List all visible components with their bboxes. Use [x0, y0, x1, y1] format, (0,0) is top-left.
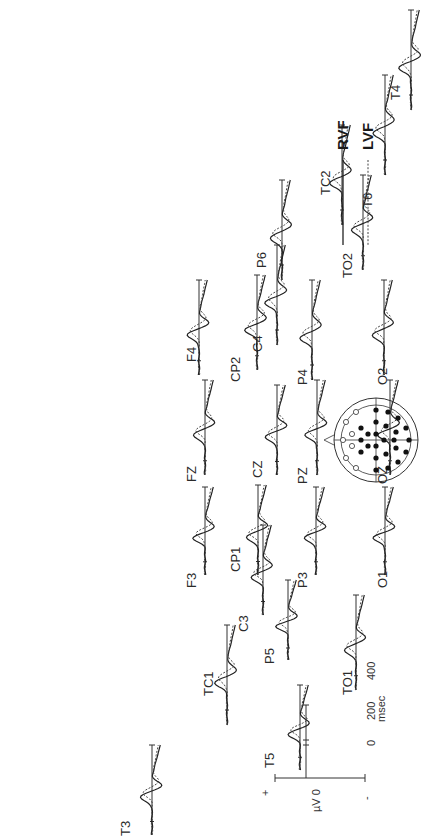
rvf-waveform: [304, 487, 325, 575]
electrode-dot-filled: [358, 425, 363, 430]
electrode-dot-filled: [406, 437, 411, 442]
electrode-label: TC1: [201, 671, 216, 696]
legend-lvf-label: LVF: [359, 123, 376, 150]
electrode-dot-open: [340, 437, 345, 442]
electrode-label: CP1: [228, 547, 243, 572]
electrode-label: PZ: [295, 467, 310, 484]
electrode-panel-p5: P5: [262, 580, 297, 664]
electrode-label: T5: [262, 753, 277, 768]
plus-label: +: [259, 790, 271, 796]
electrode-panel-to1: TO1: [340, 595, 366, 695]
electrode-panel-cp1: CP1: [228, 485, 268, 575]
electrode-dot-filled: [393, 429, 398, 434]
electrode-dot-filled: [358, 437, 363, 442]
electrode-label: F3: [184, 573, 199, 588]
electrode-dot-open: [349, 431, 354, 436]
electrode-dot-filled: [403, 425, 408, 430]
electrode-panel-t3: T3: [118, 745, 162, 836]
electrode-label: P4: [295, 369, 310, 385]
electrode-label: TO1: [340, 670, 355, 695]
electrode-label: F4: [184, 347, 199, 362]
legend-rvf-label: RVF: [334, 120, 351, 150]
nose-icon: [324, 435, 334, 445]
electrode-dot-filled: [385, 409, 390, 414]
electrode-label: O1: [375, 571, 390, 588]
electrode-panel-t5: T5: [262, 685, 309, 770]
electrode-panel-cp2: CP2: [228, 275, 266, 382]
electrode-label: FZ: [184, 466, 199, 482]
scale-bar: + µV 0 - 0 200 msec 400: [259, 662, 387, 812]
rvf-waveform: [373, 487, 395, 575]
electrode-dot-open: [353, 465, 358, 470]
electrode-dot-filled: [403, 449, 408, 454]
electrode-panel-fz: FZ: [184, 380, 215, 482]
electrode-dot-filled: [381, 437, 386, 442]
electrode-dot-filled: [383, 423, 388, 428]
electrode-panel-o1: O1: [373, 487, 395, 588]
electrode-dot-filled: [373, 419, 378, 424]
electrode-dot-filled: [373, 407, 378, 412]
erp-figure: T4TC2T6P6TO2F4C4CP2P4O2FZCZPZOZF3C3CP1P3…: [0, 0, 431, 839]
electrode-panel-f3: F3: [184, 487, 214, 588]
electrode-panel-pz: PZ: [295, 380, 327, 484]
electrode-panel-c3: C3: [236, 525, 272, 632]
electrode-panel-f4: F4: [184, 280, 209, 375]
electrode-dot-filled: [365, 443, 370, 448]
electrode-dot-open: [349, 443, 354, 448]
electrode-dot-filled: [373, 443, 378, 448]
electrode-label: TC2: [318, 170, 333, 195]
electrode-label: P3: [295, 572, 310, 588]
electrode-dot-filled: [383, 451, 388, 456]
rvf-waveform: [141, 745, 162, 835]
amplitude-label: µV 0: [310, 789, 322, 812]
electrode-label: T3: [118, 821, 133, 836]
electrode-panel-t4: T4: [388, 10, 421, 110]
electrode-label: P5: [262, 648, 277, 664]
electrode-panel-p6: P6: [254, 180, 291, 280]
electrode-panel-tc1: TC1: [201, 625, 236, 725]
minus-label: -: [360, 796, 372, 800]
head-map: [324, 398, 418, 482]
electrode-dot-filled: [395, 459, 400, 464]
electrode-dot-filled: [373, 455, 378, 460]
electrode-label: TO2: [340, 253, 355, 278]
electrode-panel-p3: P3: [295, 487, 326, 588]
electrode-label: CZ: [250, 461, 265, 478]
electrode-panel-p4: P4: [295, 280, 321, 385]
electrode-panel-o2: O2: [372, 280, 393, 385]
electrode-dot-filled: [365, 431, 370, 436]
electrode-label: C3: [236, 615, 251, 632]
electrode-dot-filled: [395, 415, 400, 420]
electrode-label: O2: [375, 368, 390, 385]
electrode-dot-filled: [391, 437, 396, 442]
electrode-dot-filled: [358, 449, 363, 454]
time-unit-label: msec: [375, 695, 387, 722]
tick-400-label: 400: [365, 662, 377, 680]
tick-0-label: 0: [365, 740, 377, 746]
electrode-label: CP2: [228, 357, 243, 382]
electrode-dot-open: [343, 419, 348, 424]
electrode-dot-filled: [373, 431, 378, 436]
electrode-dot-filled: [385, 465, 390, 470]
electrode-dot-open: [343, 455, 348, 460]
electrode-dot-open: [353, 409, 358, 414]
electrode-dot-filled: [373, 467, 378, 472]
electrode-dot-filled: [393, 445, 398, 450]
electrode-panel-cz: CZ: [250, 385, 287, 478]
electrode-label: P6: [254, 252, 269, 268]
rvf-waveform: [265, 385, 287, 475]
